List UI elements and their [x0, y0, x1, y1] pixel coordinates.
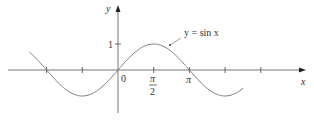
- function-label: y = sin x: [184, 27, 219, 38]
- x-tick-label-pi-over-2-num: π: [150, 73, 156, 84]
- x-axis-label: x: [300, 76, 306, 87]
- x-axis-arrow-icon: [299, 68, 306, 73]
- y-axis-arrow-icon: [116, 5, 121, 12]
- y-axis-label: y: [105, 3, 111, 14]
- y-tick-label-1: 1: [108, 39, 113, 50]
- x-tick-label-pi: π: [186, 74, 192, 85]
- x-tick-label-pi-over-2-den: 2: [150, 86, 155, 97]
- leader-dot: [169, 44, 171, 46]
- sine-graph: y x 1 0 π 2 π y = sin x: [0, 0, 314, 122]
- x-tick-label-0: 0: [121, 73, 126, 84]
- leader-line: [170, 38, 181, 45]
